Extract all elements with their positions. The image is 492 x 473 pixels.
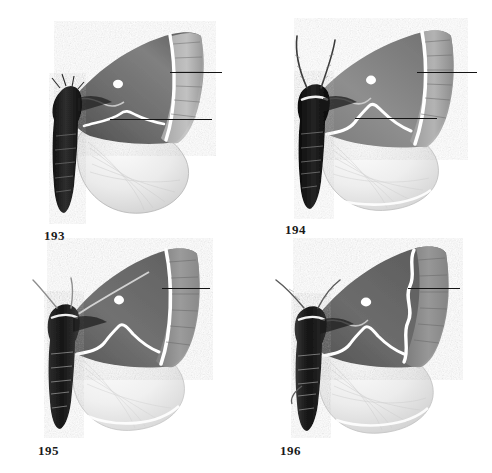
discal-spot-195 xyxy=(114,296,124,305)
leader-193-lower xyxy=(110,119,212,120)
leader-193-upper xyxy=(170,72,222,73)
figure-195 xyxy=(15,238,230,438)
figure-label-196: 196 xyxy=(280,443,301,459)
moth-plate: 193 xyxy=(0,0,492,473)
discal-spot-196 xyxy=(361,298,371,307)
figure-194 xyxy=(265,14,480,219)
antennae-195 xyxy=(33,278,73,308)
moth-specimen-194-illustration xyxy=(265,14,480,219)
discal-spot-193 xyxy=(113,80,123,88)
antennae-194 xyxy=(296,36,335,88)
leader-195-upper xyxy=(162,288,210,289)
leader-194-lower xyxy=(355,118,437,119)
moth-specimen-195-illustration xyxy=(15,238,230,438)
figure-label-195: 195 xyxy=(38,443,59,459)
leader-196-upper xyxy=(408,288,460,289)
figure-label-194: 194 xyxy=(285,222,306,238)
leader-194-upper xyxy=(417,72,477,73)
moth-specimen-196-illustration xyxy=(262,238,477,438)
discal-spot-194 xyxy=(366,76,376,85)
figure-196 xyxy=(262,238,477,438)
